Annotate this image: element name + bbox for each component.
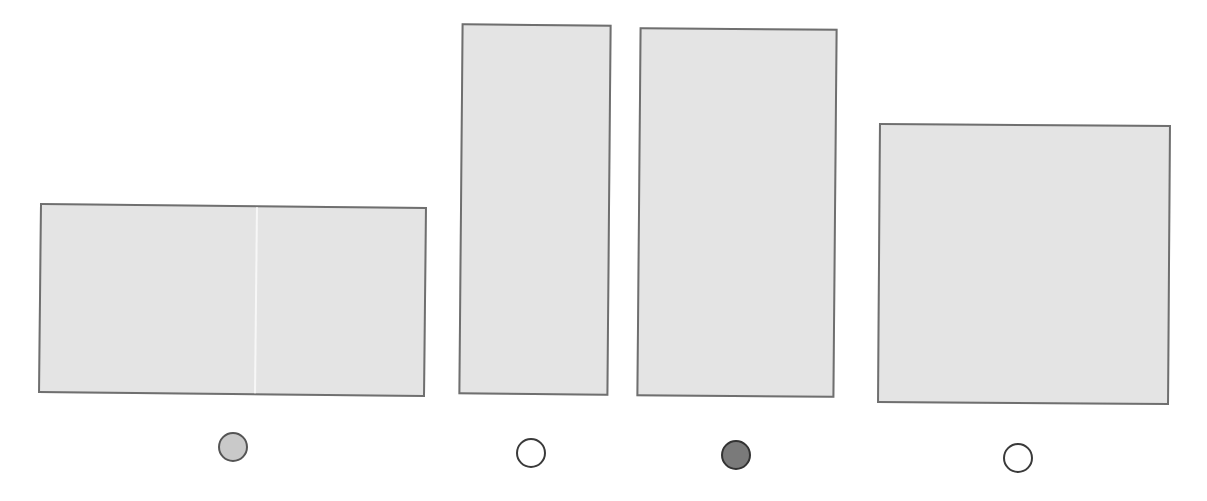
shape-option-c — [636, 27, 837, 398]
answer-bubble-b[interactable] — [516, 438, 546, 468]
shape-divider-line — [254, 207, 258, 393]
shape-option-b — [458, 23, 611, 395]
shape-option-d — [877, 123, 1171, 405]
answer-bubble-a[interactable] — [218, 432, 248, 462]
shape-option-a — [38, 203, 427, 397]
answer-bubble-c[interactable] — [721, 440, 751, 470]
answer-bubble-d[interactable] — [1003, 443, 1033, 473]
